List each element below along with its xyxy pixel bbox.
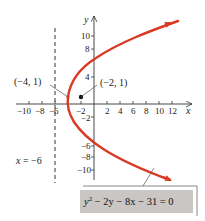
vertex-leader [50, 85, 68, 97]
x-axis-label: x [185, 105, 191, 116]
x-tick-label: 4 [118, 106, 123, 116]
y-axis-label: y [83, 14, 89, 25]
y-tick-label: 4 [85, 72, 90, 82]
x-tick-label: 12 [168, 106, 177, 116]
y-tick-label: 10 [81, 31, 91, 41]
directrix-label: x = −6 [15, 155, 42, 166]
focus-label: (−2, 1) [100, 77, 127, 89]
x-tick-label: −8 [35, 106, 45, 116]
x-tick-label: 6 [131, 106, 136, 116]
y-tick-label: 8 [85, 44, 90, 54]
x-tick-label: −6 [49, 106, 59, 116]
y-tick-label: −8 [81, 152, 91, 162]
equation-label: y2 − 2y − 8x − 31 = 0 [83, 195, 174, 207]
x-tick-label: 8 [144, 106, 149, 116]
y-tick-label: −6 [81, 141, 91, 151]
x-tick-label: 10 [155, 106, 165, 116]
parabola-diagram: −10 −8 −6 −2 2 4 6 8 10 12 x 10 8 4 −2 −… [0, 0, 205, 221]
focus-leader [81, 85, 97, 97]
curve-arrow-bottom [163, 177, 170, 180]
x-tick-label: −10 [17, 106, 32, 116]
y-tick-label: −2 [81, 113, 91, 123]
x-tick-label: 2 [105, 106, 110, 116]
vertex-label: (−4, 1) [14, 76, 41, 88]
y-tick-label: −10 [77, 165, 92, 175]
